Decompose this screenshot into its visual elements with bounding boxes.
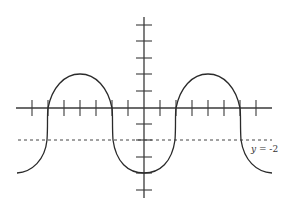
annotation-label: y = -2 [250, 144, 278, 154]
chart: y = -2 [0, 0, 287, 210]
